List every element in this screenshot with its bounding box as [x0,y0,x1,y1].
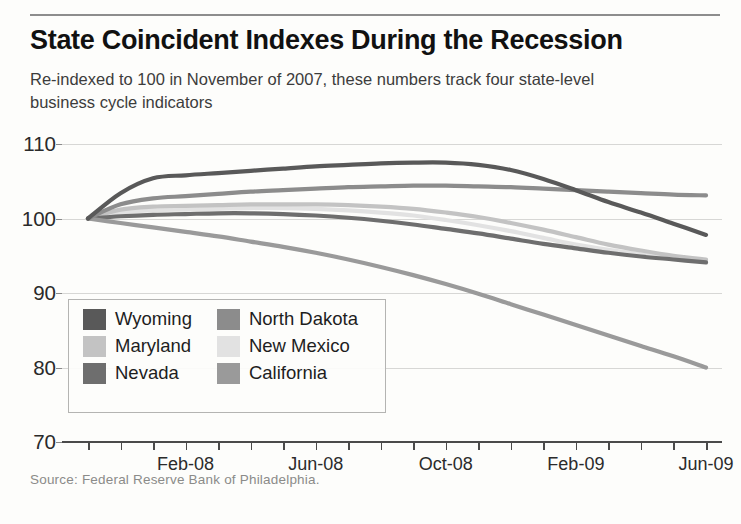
x-axis-tick [641,442,643,450]
x-axis-tick [576,442,578,450]
legend-item-label: New Mexico [249,337,350,356]
legend-item-label: Maryland [115,337,191,356]
x-axis-tick-label: Jun-09 [678,454,733,475]
x-axis-tick [446,442,448,450]
legend-item-nevada[interactable]: Nevada [83,363,209,384]
legend-swatch-icon [217,336,240,357]
y-axis-tick-label: 110 [4,134,56,155]
legend-item-label: Wyoming [115,310,192,329]
legend-swatch-icon [217,309,240,330]
x-axis-tick [413,442,415,450]
x-axis-tick-label: Feb-09 [547,454,604,475]
x-axis-tick [673,442,675,450]
x-axis-tick [283,442,285,450]
x-axis-tick [316,442,318,450]
x-axis-tick [218,442,220,450]
x-axis-tick [478,442,480,450]
source-note: Source: Federal Reserve Bank of Philadel… [30,472,320,487]
y-axis-tick-label: 90 [4,283,56,304]
x-axis-tick [88,442,90,450]
legend-swatch-icon [83,363,106,384]
legend-swatch-icon [83,309,106,330]
y-axis-tick-label: 80 [4,358,56,379]
page-title: State Coincident Indexes During the Rece… [30,26,720,56]
y-axis-tick-label: 70 [4,432,56,453]
legend-swatch-icon [217,363,240,384]
x-axis-tick [348,442,350,450]
x-axis-tick-label: Oct-08 [419,454,473,475]
x-axis-tick [608,442,610,450]
chart-page: State Coincident Indexes During the Rece… [0,0,741,524]
x-axis-tick [543,442,545,450]
x-axis-tick [121,442,123,450]
legend-item-label: North Dakota [249,310,358,329]
header-divider [30,14,720,16]
x-axis-tick [706,442,708,450]
series-line-nevada [88,213,706,262]
x-axis-tick [153,442,155,450]
legend-item-wyoming[interactable]: Wyoming [83,309,209,330]
legend-item-maryland[interactable]: Maryland [83,336,209,357]
legend-item-new-mexico[interactable]: New Mexico [217,336,375,357]
legend: WyomingNorth DakotaMarylandNew MexicoNev… [68,299,386,413]
x-axis-ticks [62,442,722,451]
page-subtitle: Re-indexed to 100 in November of 2007, t… [30,68,650,115]
x-axis-tick [251,442,253,450]
legend-swatch-icon [83,336,106,357]
x-axis-tick [186,442,188,450]
y-axis-tick-label: 100 [4,209,56,230]
legend-item-north-dakota[interactable]: North Dakota [217,309,375,330]
x-axis-tick [511,442,513,450]
x-axis-tick [381,442,383,450]
legend-item-california[interactable]: California [217,363,375,384]
legend-grid: WyomingNorth DakotaMarylandNew MexicoNev… [83,309,375,384]
legend-item-label: California [249,364,327,383]
legend-item-label: Nevada [115,364,179,383]
